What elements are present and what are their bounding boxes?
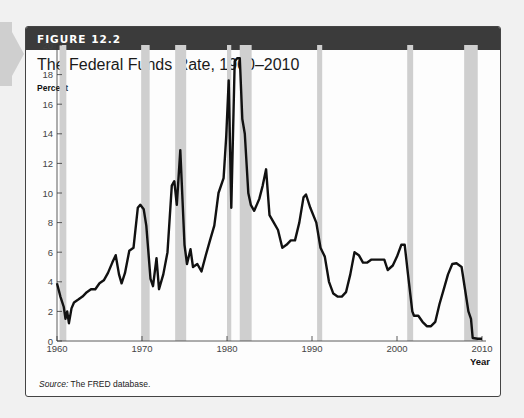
y-tick-label: 6	[48, 247, 53, 258]
x-tick-label: 2010	[471, 343, 492, 354]
figure-card: FIGURE 12.2 The Federal Funds Rate, 1960…	[25, 26, 501, 397]
recession-band	[317, 45, 322, 341]
y-tick-label: 18	[42, 69, 53, 80]
y-tick-label: 4	[48, 276, 53, 287]
y-tick-label: 8	[48, 217, 53, 228]
x-tick-label: 1970	[131, 343, 152, 354]
fed-funds-rate-line	[57, 58, 482, 339]
y-tick-label: 2	[48, 306, 53, 317]
x-tick-label: 1980	[216, 343, 237, 354]
recession-band	[141, 45, 150, 341]
y-tick-label: 16	[42, 99, 53, 110]
x-axis-label: Year	[470, 356, 490, 367]
x-tick-label: 1960	[46, 343, 67, 354]
side-arrow-marker	[0, 22, 12, 86]
source-text: The FRED database.	[68, 379, 150, 389]
x-tick-label: 1990	[301, 343, 322, 354]
y-tick-label: 10	[42, 188, 53, 199]
x-tick-label: 2000	[386, 343, 407, 354]
source-prefix: Source:	[39, 379, 68, 389]
source-note: Source: The FRED database.	[39, 379, 150, 389]
y-tick-label: 20	[42, 40, 53, 51]
y-tick-label: 12	[42, 158, 53, 169]
line-chart: 0246810121416182019601970198019902000201…	[26, 27, 501, 397]
y-tick-label: 14	[42, 128, 53, 139]
